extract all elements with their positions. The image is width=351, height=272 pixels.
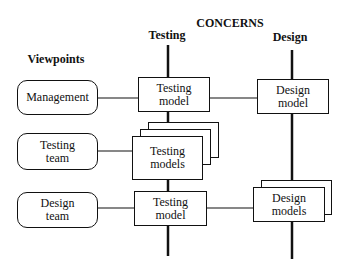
viewpoint-management: Management	[17, 80, 98, 115]
management-testing-model: Testing model	[138, 77, 210, 112]
viewpoint-design-team-line2: team	[41, 210, 75, 223]
viewpoints-concerns-diagram: CONCERNS Testing Design Viewpoints Manag…	[0, 0, 351, 272]
concerns-heading: CONCERNS	[196, 16, 263, 31]
viewpoint-design-team: Design team	[17, 192, 98, 228]
model-label-line2: model	[153, 209, 188, 222]
concern-testing-label: Testing	[149, 28, 186, 43]
design-team-testing-model: Testing model	[134, 191, 207, 226]
viewpoint-testing-team-line2: team	[40, 152, 75, 165]
model-label-line2: models	[150, 158, 185, 171]
concern-design-label: Design	[273, 30, 308, 45]
viewpoints-heading: Viewpoints	[28, 52, 85, 67]
model-label-line2: models	[272, 205, 307, 218]
model-label-line2: model	[156, 95, 191, 108]
design-team-design-models: Design models	[253, 187, 325, 222]
model-label-line1: Testing	[153, 196, 188, 209]
management-design-model: Design model	[257, 79, 329, 114]
model-label-line1: Design	[272, 192, 307, 205]
viewpoint-testing-team-line1: Testing	[40, 139, 75, 152]
model-label-line2: model	[276, 97, 310, 110]
viewpoint-management-label: Management	[26, 91, 89, 104]
testing-team-testing-models: Testing models	[132, 136, 203, 180]
model-label-line1: Design	[276, 84, 310, 97]
viewpoint-testing-team: Testing team	[17, 133, 98, 170]
model-label-line1: Testing	[156, 82, 191, 95]
